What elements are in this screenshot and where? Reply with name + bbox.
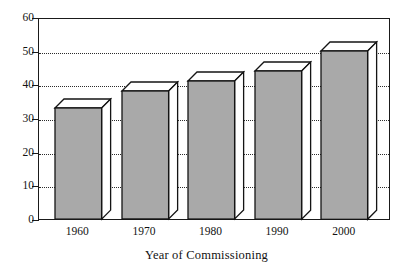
bar bbox=[321, 42, 377, 219]
bar-chart: 0102030405060 19601970198019902000 Year … bbox=[0, 0, 413, 273]
bar-side-face bbox=[168, 82, 177, 219]
bar-side-face bbox=[368, 42, 377, 219]
bar-3d-faces bbox=[321, 42, 379, 221]
y-axis-label: 30 bbox=[23, 113, 35, 125]
x-axis-label: 1960 bbox=[54, 225, 101, 237]
x-axis-label: 1990 bbox=[254, 225, 301, 237]
bar-3d-faces bbox=[55, 99, 113, 221]
y-axis-label: 40 bbox=[23, 79, 35, 91]
x-axis-label: 2000 bbox=[320, 225, 367, 237]
x-axis-label: 1980 bbox=[187, 225, 234, 237]
bar-front-face bbox=[55, 108, 102, 219]
bar bbox=[255, 62, 311, 219]
y-axis-label: 60 bbox=[23, 12, 35, 24]
y-axis-label: 50 bbox=[23, 46, 35, 58]
bar-front-face bbox=[122, 91, 169, 219]
plot-area bbox=[38, 18, 390, 220]
bar bbox=[55, 99, 111, 219]
bar bbox=[122, 82, 178, 219]
bar bbox=[188, 72, 244, 219]
y-axis-label: 0 bbox=[28, 214, 34, 226]
bar-side-face bbox=[102, 99, 111, 219]
bar-front-face bbox=[321, 51, 368, 219]
x-axis-title: Year of Commissioning bbox=[0, 248, 413, 263]
y-axis-label: 10 bbox=[23, 180, 35, 192]
bar-front-face bbox=[188, 81, 235, 219]
x-axis-label: 1970 bbox=[121, 225, 168, 237]
bar-side-face bbox=[301, 62, 310, 219]
bar-3d-faces bbox=[188, 72, 246, 221]
bar-3d-faces bbox=[255, 62, 313, 221]
bar-3d-faces bbox=[122, 82, 180, 221]
bar-side-face bbox=[235, 72, 244, 219]
y-axis-label: 20 bbox=[23, 147, 35, 159]
bar-front-face bbox=[255, 71, 302, 219]
